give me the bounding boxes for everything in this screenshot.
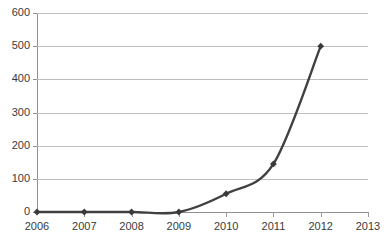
gridline-300 [37,113,368,114]
y-axis-label: 300 [0,107,30,118]
gridline-600 [37,13,368,14]
x-tick-2012 [321,212,322,217]
y-axis-label: 600 [0,7,30,18]
chart-title-cropped [36,0,156,3]
y-tick-400 [33,79,37,80]
y-tick-100 [33,179,37,180]
y-tick-300 [33,113,37,114]
y-axis-label: 400 [0,73,30,84]
y-axis-label: 0 [0,206,30,217]
gridline-100 [37,179,368,180]
x-tick-2009 [179,212,180,217]
x-tick-2007 [84,212,85,217]
plot-area [37,13,368,212]
y-axis-label: 200 [0,140,30,151]
gridline-400 [37,79,368,80]
x-tick-2013 [368,212,369,217]
y-tick-600 [33,13,37,14]
x-tick-2011 [273,212,274,217]
y-tick-500 [33,46,37,47]
x-tick-2008 [132,212,133,217]
x-axis-label: 2013 [340,220,387,232]
x-tick-2010 [226,212,227,217]
y-axis-label: 500 [0,40,30,51]
y-tick-200 [33,146,37,147]
y-tick-0 [33,212,37,213]
line-chart: 0100200300400500600 20062007200820092010… [0,0,387,237]
gridline-200 [37,146,368,147]
gridline-0 [37,212,368,213]
y-axis-label: 100 [0,173,30,184]
gridline-500 [37,46,368,47]
